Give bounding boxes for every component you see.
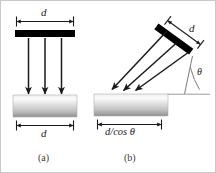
- figure-container: d d (a) d θ d/cos θ (b): [0, 0, 216, 173]
- panel-b-surface: [94, 94, 168, 116]
- panel-a-source-plate: [15, 30, 75, 37]
- figure-canvas: [1, 1, 216, 173]
- panel-b-angle-label: θ: [197, 67, 202, 77]
- panel-a-top-dimension: [17, 17, 74, 27]
- panel-a-footprint-label: d: [41, 128, 47, 139]
- panel-b-footprint-label: d/cos θ: [105, 127, 135, 138]
- panel-b-caption: (b): [124, 153, 136, 163]
- panel-a-rays: [29, 38, 62, 94]
- panel-a-surface: [13, 95, 77, 117]
- panel-a-beam-width-label: d: [41, 7, 47, 18]
- panel-a-group: [13, 17, 77, 131]
- panel-b-beam-width-label: d: [189, 23, 195, 34]
- panel-a-caption: (a): [38, 153, 49, 163]
